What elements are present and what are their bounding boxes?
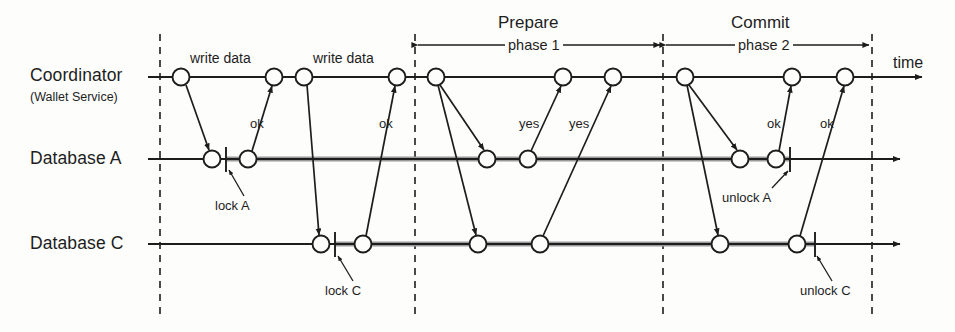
- leader-unlock-c: [817, 256, 832, 281]
- annotation-label-lock-c: lock C: [325, 283, 361, 298]
- leader-unlock-a: [772, 171, 788, 188]
- message-label-ok-c-1: ok: [379, 116, 393, 131]
- arrow-commit-a: [689, 85, 737, 150]
- annotation-leaders: [229, 170, 832, 281]
- annotation-label-unlock-c: unlock C: [800, 283, 851, 298]
- leader-lock-a: [229, 170, 244, 196]
- leader-lock-c: [338, 256, 353, 281]
- event-node[interactable]: [789, 236, 806, 253]
- phase-sublabel-phase-1: phase 1: [505, 37, 563, 53]
- sequence-diagram: Coordinator (Wallet Service) Database A …: [0, 0, 955, 332]
- phase-sublabel-phase-2: phase 2: [735, 37, 793, 53]
- event-node[interactable]: [532, 236, 549, 253]
- event-node[interactable]: [313, 236, 330, 253]
- message-label-ok-a-2: ok: [767, 116, 781, 131]
- arrow-ok-c-2: [800, 86, 844, 236]
- annotation-label-lock-a: lock A: [215, 198, 250, 213]
- event-node[interactable]: [555, 69, 572, 86]
- event-node[interactable]: [605, 69, 622, 86]
- event-node[interactable]: [296, 69, 313, 86]
- phase-title-commit: Commit: [731, 13, 790, 33]
- lane-label-database-c: Database C: [30, 233, 123, 254]
- event-node[interactable]: [355, 236, 372, 253]
- event-node[interactable]: [732, 151, 749, 168]
- event-node[interactable]: [712, 236, 729, 253]
- phase-title-prepare: Prepare: [498, 13, 558, 33]
- annotation-label-unlock-a: unlock A: [722, 190, 771, 205]
- event-node[interactable]: [520, 151, 537, 168]
- event-node[interactable]: [389, 69, 406, 86]
- lane-sublabel-coordinator: (Wallet Service): [30, 90, 118, 104]
- message-label-write-data-c: write data: [313, 50, 374, 66]
- event-node[interactable]: [784, 69, 801, 86]
- time-axis-label: time: [893, 54, 923, 72]
- message-label-ok-a-1: ok: [250, 116, 264, 131]
- event-node[interactable]: [768, 151, 785, 168]
- event-node[interactable]: [479, 151, 496, 168]
- message-label-write-data-a: write data: [190, 50, 251, 66]
- lane-label-coordinator: Coordinator: [30, 65, 123, 86]
- message-label-ok-c-2: ok: [820, 116, 834, 131]
- message-label-yes-a: yes: [519, 116, 539, 131]
- lane-label-database-a: Database A: [30, 148, 121, 169]
- event-node[interactable]: [470, 236, 487, 253]
- event-node[interactable]: [677, 69, 694, 86]
- event-node[interactable]: [266, 69, 283, 86]
- message-label-yes-c: yes: [569, 116, 589, 131]
- arrow-write-data-a: [186, 85, 209, 150]
- event-node[interactable]: [204, 151, 221, 168]
- event-node[interactable]: [428, 69, 445, 86]
- event-node[interactable]: [173, 69, 190, 86]
- event-node[interactable]: [240, 151, 257, 168]
- event-node[interactable]: [837, 69, 854, 86]
